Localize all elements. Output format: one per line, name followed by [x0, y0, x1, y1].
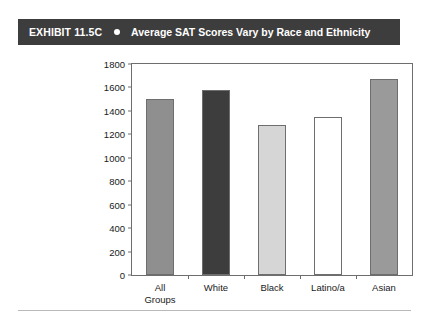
bar-black[interactable] — [258, 125, 286, 275]
x-axis-tick-mark — [356, 275, 357, 279]
exhibit-title: Average SAT Scores Vary by Race and Ethn… — [131, 26, 370, 38]
y-axis-tick-label: 800 — [109, 176, 125, 187]
bar-slot — [132, 64, 188, 275]
x-axis-tick-mark — [188, 275, 189, 279]
y-axis-tick-label: 600 — [109, 199, 125, 210]
bar-chart: 020040060080010001200140016001800 All Gr… — [0, 55, 429, 305]
bar-asian[interactable] — [370, 79, 398, 275]
x-axis-tick-mark — [300, 275, 301, 279]
x-axis-label-asian: Asian — [372, 282, 396, 294]
bar-slot — [244, 64, 300, 275]
bars-layer — [132, 64, 412, 275]
plot-frame: 020040060080010001200140016001800 All Gr… — [131, 63, 413, 276]
bar-slot — [356, 64, 412, 275]
y-axis-tick-label: 1000 — [104, 152, 125, 163]
x-axis-label-latino-a: Latino/a — [311, 282, 345, 294]
y-axis-tick-label: 1200 — [104, 129, 125, 140]
x-axis-label-all-groups: All Groups — [144, 282, 175, 306]
bullet-dot-icon — [114, 29, 120, 35]
y-axis-tick-label: 1800 — [104, 59, 125, 70]
y-axis-tick-label: 0 — [120, 270, 125, 281]
y-axis-tick-label: 1600 — [104, 82, 125, 93]
y-axis-tick-label: 1400 — [104, 105, 125, 116]
bar-all-groups[interactable] — [146, 99, 174, 275]
y-axis-tick-label: 400 — [109, 223, 125, 234]
bar-slot — [300, 64, 356, 275]
exhibit-number-label: EXHIBIT 11.5C — [29, 26, 102, 38]
y-axis-tick-label: 200 — [109, 246, 125, 257]
x-axis-tick-mark — [244, 275, 245, 279]
bar-slot — [188, 64, 244, 275]
x-axis-label-white: White — [204, 282, 228, 294]
footer-divider — [18, 310, 411, 311]
x-axis-label-black: Black — [260, 282, 283, 294]
bar-latino-a[interactable] — [314, 117, 342, 275]
bar-white[interactable] — [202, 90, 230, 275]
exhibit-header-banner: EXHIBIT 11.5C Average SAT Scores Vary by… — [18, 19, 400, 45]
